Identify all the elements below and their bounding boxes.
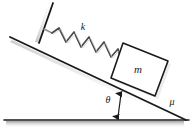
mass-label: m [134,63,142,75]
spring-anchor-stub [44,29,52,33]
friction-coefficient-label: μ [168,96,174,107]
physics-diagram: k m μ θ [0,0,193,133]
incline-angle-label: θ [106,94,111,105]
wall-support-line [39,3,53,43]
ground-shadow [6,121,184,128]
spring-coil-highlight [54,29,124,63]
diagram-canvas: k m μ θ [0,0,193,133]
angle-indicator-arrow [118,94,121,117]
spring-constant-label: k [81,21,86,32]
